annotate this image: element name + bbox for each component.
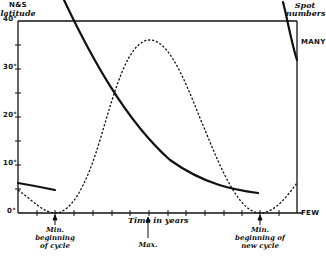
x-axis-title: Time in years (128, 216, 189, 225)
latitude-series (18, 0, 297, 193)
y-tick-0: 0° (7, 207, 16, 216)
y-tick-40: 40° (3, 15, 17, 24)
latitude-segment-prev-cycle (18, 183, 55, 190)
right-label-few: FEW (301, 209, 319, 218)
max-label: Max. (133, 240, 163, 249)
chart-frame (18, 21, 302, 213)
min2-label-line3: new cycle (235, 242, 285, 250)
latitude-segment-current-cycle (64, 0, 258, 193)
right-label-many: MANY (301, 38, 326, 47)
right-axis-title-line2: numbers (286, 9, 322, 18)
spot-numbers-series (18, 40, 297, 213)
min1-label-line3: of cycle (30, 242, 80, 250)
y-tick-10: 10° (3, 159, 17, 168)
y-tick-20: 20° (3, 111, 17, 120)
y-tick-30: 30° (3, 63, 17, 72)
